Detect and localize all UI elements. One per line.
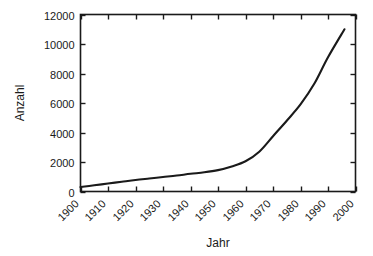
x-axis-title: Jahr bbox=[206, 236, 229, 250]
x-tick-label: 1940 bbox=[165, 197, 191, 223]
y-axis-title: Anzahl bbox=[13, 85, 27, 122]
line-chart: 1900191019201930194019501960197019801990… bbox=[0, 0, 373, 256]
y-tick-label: 0 bbox=[68, 187, 74, 199]
x-tick-label: 1970 bbox=[247, 197, 273, 223]
y-tick-label: 6000 bbox=[50, 98, 74, 110]
chart-figure: 1900191019201930194019501960197019801990… bbox=[0, 0, 373, 256]
x-tick-label: 2000 bbox=[330, 197, 356, 223]
y-tick-label: 8000 bbox=[50, 69, 74, 81]
y-tick-label: 12000 bbox=[44, 10, 75, 22]
y-tick-label: 10000 bbox=[44, 39, 75, 51]
x-tick-label: 1900 bbox=[55, 197, 81, 223]
x-tick-label: 1960 bbox=[220, 197, 246, 223]
y-tick-label: 2000 bbox=[50, 157, 74, 169]
x-tick-label: 1920 bbox=[110, 197, 136, 223]
y-axis-tick-labels: 020004000600080001000012000 bbox=[44, 10, 75, 199]
x-tick-label: 1910 bbox=[82, 197, 108, 223]
x-tick-label: 1990 bbox=[302, 197, 328, 223]
x-tick-label: 1950 bbox=[192, 197, 218, 223]
x-axis-tick-labels: 1900191019201930194019501960197019801990… bbox=[55, 197, 356, 223]
y-tick-label: 4000 bbox=[50, 128, 74, 140]
plot-frame bbox=[81, 15, 356, 192]
x-tick-label: 1980 bbox=[275, 197, 301, 223]
x-tick-label: 1930 bbox=[137, 197, 163, 223]
